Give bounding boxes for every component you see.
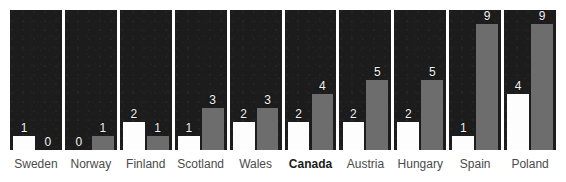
bar-group: 13 (175, 10, 227, 150)
bar-value-label: 4 (515, 80, 522, 93)
bar-group: 01 (65, 10, 117, 150)
white-bar[interactable]: 1 (178, 136, 200, 150)
category-label-austria: Austria (339, 154, 391, 176)
white-bar[interactable]: 2 (397, 122, 419, 150)
bar-value-label: 5 (374, 66, 381, 79)
white-bar[interactable]: 4 (507, 94, 529, 150)
bar-value-label: 2 (405, 108, 412, 121)
gray-bar[interactable]: 9 (531, 24, 553, 150)
bar-group: 25 (339, 10, 391, 150)
bar-value-label: 2 (240, 108, 247, 121)
bar-group: 25 (394, 10, 446, 150)
chart-panel: 01 (65, 10, 117, 150)
bar-value-label: 5 (429, 66, 436, 79)
bar-group: 23 (230, 10, 282, 150)
gray-bar[interactable]: 3 (202, 108, 224, 150)
category-label-norway: Norway (65, 154, 117, 176)
white-bar[interactable]: 2 (343, 122, 365, 150)
gray-bar[interactable]: 1 (92, 136, 114, 150)
bar-value-label: 3 (264, 94, 271, 107)
white-bar[interactable]: 1 (452, 136, 474, 150)
category-label-row: SwedenNorwayFinlandScotlandWalesCanadaAu… (10, 154, 556, 176)
bar-value-label: 2 (295, 108, 302, 121)
bar-group: 10 (10, 10, 62, 150)
bar-value-label: 9 (539, 10, 546, 23)
gray-bar[interactable]: 3 (257, 108, 279, 150)
gray-bar[interactable]: 4 (312, 94, 334, 150)
bar-value-label: 2 (350, 108, 357, 121)
chart-panel: 25 (339, 10, 391, 150)
chart-panel: 13 (175, 10, 227, 150)
bar-value-label: 4 (319, 80, 326, 93)
bar-value-label: 1 (99, 122, 106, 135)
bar-group: 19 (449, 10, 501, 150)
category-label-finland: Finland (120, 154, 172, 176)
category-label-sweden: Sweden (10, 154, 62, 176)
bar-group: 21 (120, 10, 172, 150)
category-label-spain: Spain (449, 154, 501, 176)
category-label-wales: Wales (230, 154, 282, 176)
bar-value-label: 2 (130, 108, 137, 121)
category-label-canada: Canada (285, 154, 337, 176)
bar-value-label: 1 (21, 122, 28, 135)
chart-panel: 24 (285, 10, 337, 150)
white-bar[interactable]: 2 (288, 122, 310, 150)
white-bar[interactable]: 2 (233, 122, 255, 150)
bar-value-label: 0 (37, 136, 59, 149)
bar-value-label: 3 (209, 94, 216, 107)
bar-value-label: 9 (484, 10, 491, 23)
bar-value-label: 1 (460, 122, 467, 135)
panel-strip: 10012113232425251949 (10, 10, 556, 150)
gray-bar[interactable]: 1 (147, 136, 169, 150)
gray-bar[interactable]: 5 (421, 80, 443, 150)
chart-panel: 49 (504, 10, 556, 150)
gray-bar[interactable]: 9 (476, 24, 498, 150)
bar-group: 24 (285, 10, 337, 150)
chart-panel: 19 (449, 10, 501, 150)
bar-group: 49 (504, 10, 556, 150)
category-label-scotland: Scotland (175, 154, 227, 176)
category-label-poland: Poland (504, 154, 556, 176)
bar-value-label: 1 (154, 122, 161, 135)
chart-panel: 21 (120, 10, 172, 150)
category-label-hungary: Hungary (394, 154, 446, 176)
gray-bar[interactable]: 5 (366, 80, 388, 150)
bar-value-label: 0 (68, 136, 90, 149)
chart-panel: 25 (394, 10, 446, 150)
white-bar[interactable]: 1 (13, 136, 35, 150)
white-bar[interactable]: 2 (123, 122, 145, 150)
bar-chart-figure: 10012113232425251949 SwedenNorwayFinland… (0, 0, 566, 182)
chart-panel: 23 (230, 10, 282, 150)
bar-value-label: 1 (185, 122, 192, 135)
chart-panel: 10 (10, 10, 62, 150)
